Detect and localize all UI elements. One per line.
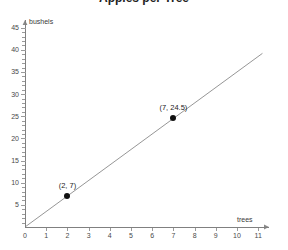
x-axis-line (25, 227, 269, 228)
y-tick-minor (22, 223, 25, 224)
y-tick-minor (22, 112, 25, 113)
y-tick-label: 35 (3, 68, 19, 75)
y-tick-minor (22, 37, 25, 38)
y-tick-label: 5 (3, 201, 19, 208)
y-tick-minor (22, 156, 25, 157)
y-tick-minor (22, 218, 25, 219)
data-point-label: (2, 7) (59, 181, 77, 190)
y-tick-minor (22, 192, 25, 193)
y-tick-minor (22, 169, 25, 170)
y-tick-minor (22, 125, 25, 126)
y-tick-minor (22, 32, 25, 33)
x-tick-label: 1 (39, 232, 53, 240)
x-tick-label: 7 (166, 232, 180, 240)
y-tick-minor (22, 187, 25, 188)
y-tick-major (21, 138, 26, 139)
y-tick-minor (22, 81, 25, 82)
x-tick (195, 228, 196, 231)
chart-canvas: Apples per Tree 51015202530354045 012345… (0, 0, 288, 250)
y-tick-minor (22, 85, 25, 86)
plot-area (0, 0, 288, 250)
y-tick-minor (22, 76, 25, 77)
y-tick-minor (22, 178, 25, 179)
y-tick-major (21, 94, 26, 95)
y-tick-label: 40 (3, 46, 19, 53)
y-tick-minor (22, 63, 25, 64)
y-tick-label: 45 (3, 24, 19, 31)
y-tick-minor (22, 45, 25, 46)
y-tick-label: 15 (3, 157, 19, 164)
y-tick-minor (22, 174, 25, 175)
x-tick-label: 9 (209, 232, 223, 240)
y-tick-major (21, 116, 26, 117)
y-tick-minor (22, 214, 25, 215)
y-tick-minor (22, 90, 25, 91)
y-tick-minor (22, 103, 25, 104)
y-axis-title: bushels (29, 18, 53, 25)
x-tick (131, 228, 132, 231)
y-tick-major (21, 205, 26, 206)
x-tick-label: 11 (251, 232, 265, 240)
y-tick-minor (22, 209, 25, 210)
y-tick-minor (22, 200, 25, 201)
x-tick (173, 228, 174, 231)
x-tick (46, 228, 47, 231)
y-tick-minor (22, 41, 25, 42)
data-point-label: (7, 24.5) (159, 103, 187, 112)
y-tick-major (21, 72, 26, 73)
x-tick-label: 10 (230, 232, 244, 240)
y-tick-minor (22, 147, 25, 148)
x-tick (216, 228, 217, 231)
y-tick-minor (22, 54, 25, 55)
y-tick-minor (22, 152, 25, 153)
y-tick-major (21, 183, 26, 184)
x-tick-label: 5 (124, 232, 138, 240)
y-tick-minor (22, 121, 25, 122)
x-tick (67, 228, 68, 231)
y-tick-label: 10 (3, 179, 19, 186)
y-tick-label: 20 (3, 135, 19, 142)
y-tick-minor (22, 130, 25, 131)
y-tick-minor (22, 196, 25, 197)
x-tick-label: 4 (103, 232, 117, 240)
y-axis-line (25, 20, 26, 228)
x-tick-label: 6 (145, 232, 159, 240)
y-tick-label: 30 (3, 91, 19, 98)
y-tick-minor (22, 143, 25, 144)
y-tick-major (21, 28, 26, 29)
y-tick-label: 25 (3, 113, 19, 120)
x-tick (258, 228, 259, 231)
x-tick (110, 228, 111, 231)
y-tick-major (21, 50, 26, 51)
x-tick-label: 8 (188, 232, 202, 240)
y-tick-major (21, 161, 26, 162)
x-tick-label: 3 (82, 232, 96, 240)
x-tick (152, 228, 153, 231)
trend-line (25, 53, 262, 227)
x-tick (89, 228, 90, 231)
y-tick-minor (22, 99, 25, 100)
x-axis-title: trees (237, 216, 253, 223)
y-tick-minor (22, 107, 25, 108)
x-tick-label: 0 (18, 232, 32, 240)
y-tick-minor (22, 59, 25, 60)
y-tick-minor (22, 165, 25, 166)
x-tick-label: 2 (60, 232, 74, 240)
y-tick-minor (22, 68, 25, 69)
x-tick (237, 228, 238, 231)
y-tick-minor (22, 134, 25, 135)
